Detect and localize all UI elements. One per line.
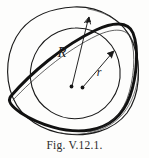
label-R: R — [57, 44, 67, 60]
figure-drawing: R r — [0, 0, 149, 140]
label-r: r — [97, 65, 102, 79]
center-dot-outer — [70, 85, 74, 89]
figure-caption: Fig. V.12.1. — [0, 139, 149, 151]
center-dot-inner — [81, 86, 85, 90]
figure-page: R r Fig. V.12.1. — [0, 0, 149, 158]
figure-svg: R r — [0, 0, 149, 140]
